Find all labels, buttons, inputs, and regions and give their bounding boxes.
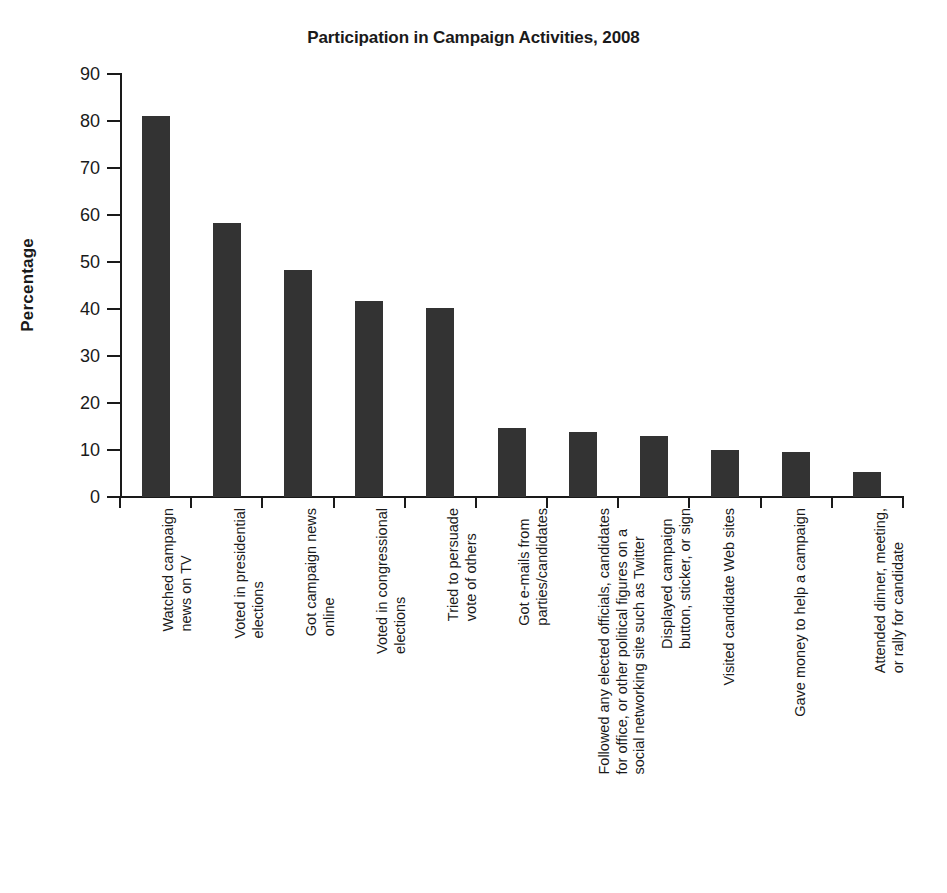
y-tick-label-wrap: 80	[50, 121, 100, 122]
x-tick-mark	[902, 497, 904, 508]
y-tick-mark	[107, 73, 120, 75]
y-axis-line	[120, 73, 122, 498]
bar	[284, 270, 312, 497]
bar	[853, 472, 881, 497]
x-category-label: Tried to persuade vote of others	[445, 508, 480, 621]
y-tick-label-wrap: 10	[50, 450, 100, 451]
bar	[426, 308, 454, 497]
y-tick-label: 10	[56, 441, 100, 459]
y-tick-label-wrap: 30	[50, 356, 100, 357]
y-tick-label: 0	[56, 488, 100, 506]
x-category-label: Displayed campaign button, sticker, or s…	[659, 508, 694, 649]
y-tick-label: 80	[56, 112, 100, 130]
x-tick-mark	[261, 497, 263, 508]
x-category-label: Voted in presidential elections	[232, 508, 267, 639]
y-tick-mark	[107, 308, 120, 310]
y-tick-label-wrap: 0	[50, 497, 100, 498]
x-category-label: Watched campaign news on TV	[160, 508, 195, 632]
x-tick-mark	[760, 497, 762, 508]
x-tick-mark	[546, 497, 548, 508]
bar	[782, 452, 810, 497]
y-tick-label-wrap: 20	[50, 403, 100, 404]
x-category-label: Got e-mails from parties/candidates	[516, 508, 551, 626]
x-category-label: Gave money to help a campaign	[792, 508, 810, 717]
x-tick-mark	[831, 497, 833, 508]
y-tick-label-wrap: 60	[50, 215, 100, 216]
y-tick-label: 50	[56, 253, 100, 271]
bar	[569, 432, 597, 497]
x-tick-mark	[688, 497, 690, 508]
x-category-label: Got campaign news online	[303, 508, 338, 636]
y-tick-label: 30	[56, 347, 100, 365]
bar	[213, 223, 241, 497]
y-tick-label-wrap: 40	[50, 309, 100, 310]
bar	[355, 301, 383, 497]
chart-title: Participation in Campaign Activities, 20…	[0, 28, 947, 48]
y-axis-title: Percentage	[18, 238, 38, 332]
y-tick-label: 60	[56, 206, 100, 224]
y-tick-mark	[107, 355, 120, 357]
x-tick-mark	[617, 497, 619, 508]
y-tick-mark	[107, 261, 120, 263]
y-tick-label-wrap: 50	[50, 262, 100, 263]
x-category-label: Visited candidate Web sites	[721, 508, 739, 686]
x-tick-mark	[333, 497, 335, 508]
bar	[640, 436, 668, 497]
y-tick-mark	[107, 120, 120, 122]
y-tick-mark	[107, 167, 120, 169]
y-tick-mark	[107, 402, 120, 404]
x-category-label: Attended dinner, meeting, or rally for c…	[872, 508, 907, 673]
y-tick-label-wrap: 90	[50, 74, 100, 75]
y-tick-label: 90	[56, 65, 100, 83]
bar	[142, 116, 170, 497]
x-tick-mark	[404, 497, 406, 508]
y-tick-label: 40	[56, 300, 100, 318]
x-category-label: Followed any elected officials, candidat…	[596, 508, 649, 775]
bar	[711, 450, 739, 497]
x-tick-mark	[119, 497, 121, 508]
y-tick-label-wrap: 70	[50, 168, 100, 169]
x-category-label: Voted in congressional elections	[374, 508, 409, 654]
x-tick-mark	[475, 497, 477, 508]
x-tick-mark	[190, 497, 192, 508]
bar	[498, 428, 526, 497]
y-tick-mark	[107, 449, 120, 451]
y-tick-mark	[107, 214, 120, 216]
bar-chart: Participation in Campaign Activities, 20…	[0, 0, 947, 893]
y-tick-label: 20	[56, 394, 100, 412]
y-tick-label: 70	[56, 159, 100, 177]
